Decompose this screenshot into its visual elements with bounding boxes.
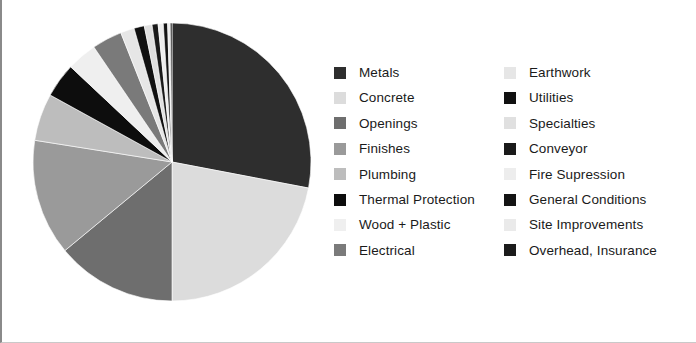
legend-swatch-icon — [504, 67, 516, 79]
legend-item[interactable]: Openings — [334, 111, 504, 136]
legend-swatch-icon — [504, 143, 516, 155]
legend-item-label: General Conditions — [529, 193, 646, 207]
legend-item[interactable]: Wood + Plastic — [334, 212, 504, 237]
legend-item[interactable]: Earthwork — [504, 60, 686, 85]
legend-item[interactable]: Fire Supression — [504, 162, 686, 187]
legend-swatch-icon — [504, 244, 516, 256]
legend-item-label: Overhead, Insurance — [529, 244, 657, 258]
pie-slice[interactable] — [172, 23, 311, 188]
legend-swatch-icon — [334, 168, 346, 180]
legend-item[interactable]: Electrical — [334, 238, 504, 263]
legend-item[interactable]: Finishes — [334, 136, 504, 161]
legend-item-label: Metals — [359, 66, 399, 80]
legend-item-label: Site Improvements — [529, 218, 643, 232]
legend-swatch-icon — [504, 219, 516, 231]
pie-chart-svg — [32, 22, 312, 302]
legend-item-label: Electrical — [359, 244, 415, 258]
legend-item[interactable]: Metals — [334, 60, 504, 85]
pie-chart-figure: Metals Concrete Openings Finishes Plumbi… — [0, 0, 696, 343]
legend-swatch-icon — [504, 194, 516, 206]
legend-item-label: Conveyor — [529, 142, 588, 156]
legend-item[interactable]: Utilities — [504, 85, 686, 110]
legend-item[interactable]: Overhead, Insurance — [504, 238, 686, 263]
legend-item[interactable]: Specialties — [504, 111, 686, 136]
legend-swatch-icon — [334, 194, 346, 206]
chart-legend: Metals Concrete Openings Finishes Plumbi… — [334, 60, 686, 263]
legend-item-label: Utilities — [529, 91, 573, 105]
legend-swatch-icon — [334, 143, 346, 155]
legend-item-label: Finishes — [359, 142, 410, 156]
legend-item[interactable]: Plumbing — [334, 162, 504, 187]
legend-item[interactable]: General Conditions — [504, 187, 686, 212]
legend-item[interactable]: Concrete — [334, 85, 504, 110]
legend-item-label: Openings — [359, 117, 418, 131]
legend-item-label: Wood + Plastic — [359, 218, 451, 232]
legend-swatch-icon — [504, 92, 516, 104]
legend-swatch-icon — [334, 117, 346, 129]
legend-item-label: Specialties — [529, 117, 595, 131]
legend-item[interactable]: Thermal Protection — [334, 187, 504, 212]
legend-item-label: Fire Supression — [529, 168, 625, 182]
legend-swatch-icon — [334, 92, 346, 104]
legend-item-label: Plumbing — [359, 168, 416, 182]
legend-item-label: Concrete — [359, 91, 415, 105]
legend-swatch-icon — [334, 244, 346, 256]
legend-swatch-icon — [504, 168, 516, 180]
legend-column-left: Metals Concrete Openings Finishes Plumbi… — [334, 60, 504, 263]
legend-item[interactable]: Site Improvements — [504, 212, 686, 237]
legend-swatch-icon — [504, 117, 516, 129]
legend-swatch-icon — [334, 67, 346, 79]
pie-chart-plot-area — [32, 22, 312, 302]
legend-item-label: Thermal Protection — [359, 193, 475, 207]
legend-item-label: Earthwork — [529, 66, 591, 80]
legend-column-right: Earthwork Utilities Specialties Conveyor… — [504, 60, 686, 263]
legend-item[interactable]: Conveyor — [504, 136, 686, 161]
legend-swatch-icon — [334, 219, 346, 231]
